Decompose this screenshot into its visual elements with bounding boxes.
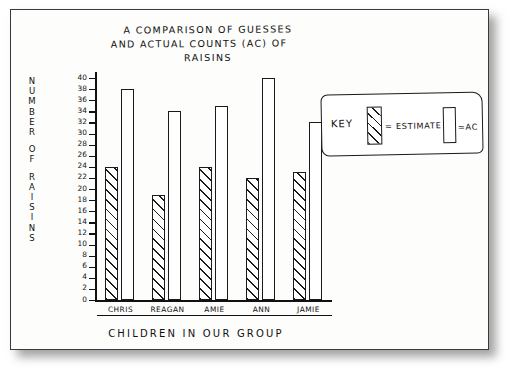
y-axis-tick xyxy=(89,233,96,234)
bar-estimate xyxy=(246,178,259,300)
y-axis-label-char: I xyxy=(24,192,40,202)
x-axis-label: CHILDREN IN OUR GROUP xyxy=(71,328,321,339)
y-axis-tick-label: 34 xyxy=(78,106,87,115)
y-axis-tick-label: 6 xyxy=(82,261,87,270)
y-axis-tick-label: 2 xyxy=(82,283,87,292)
y-axis-tick-label: 18 xyxy=(78,195,87,204)
bars-container xyxy=(97,72,332,300)
x-axis-category-label: REAGAN xyxy=(144,305,191,316)
y-axis-label-char: E xyxy=(24,117,40,127)
plot-area: 4038363432302826242220181614121086420 CH… xyxy=(67,72,327,304)
y-axis-tick xyxy=(89,156,96,157)
legend-text-ac: =AC xyxy=(458,122,478,132)
y-axis-tick-label: 40 xyxy=(78,73,87,82)
y-axis-tick-label: 0 xyxy=(82,295,87,304)
bar-estimate xyxy=(105,167,118,300)
y-axis-label-char: R xyxy=(24,127,40,137)
bar-ac xyxy=(168,111,181,300)
y-axis-tick xyxy=(89,89,96,90)
legend-swatch-estimate xyxy=(367,106,383,144)
y-axis-tick-label: 8 xyxy=(82,250,87,259)
bar-estimate xyxy=(199,167,212,300)
y-axis-label-char: I xyxy=(24,212,40,222)
x-axis-category-label: AMIE xyxy=(191,305,238,316)
bar-estimate xyxy=(152,195,165,300)
y-axis-tick xyxy=(89,178,96,179)
y-axis-tick-label: 30 xyxy=(78,128,87,137)
y-axis-tick xyxy=(89,122,96,123)
bar-ac xyxy=(262,78,275,300)
y-axis-tick xyxy=(89,211,96,212)
bar-ac xyxy=(121,89,134,300)
y-axis-tick xyxy=(89,134,96,135)
y-axis-label-char: S xyxy=(24,202,40,212)
y-axis-tick xyxy=(89,300,96,301)
y-axis-tick xyxy=(89,200,96,201)
y-axis-tick-label: 20 xyxy=(78,184,87,193)
y-axis-label: NUMBEROFRAISINS xyxy=(24,76,40,243)
y-axis-tick-label: 36 xyxy=(78,95,87,104)
y-axis-tick-label: 14 xyxy=(78,217,87,226)
y-axis-label-char: U xyxy=(24,86,40,96)
y-axis-label-char: R xyxy=(24,172,40,182)
bar-ac xyxy=(309,122,322,300)
y-axis-label-char: S xyxy=(24,233,40,243)
x-axis-category-label: CHRIS xyxy=(97,305,144,316)
y-axis-tick-label: 16 xyxy=(78,206,87,215)
y-axis-tick xyxy=(89,111,96,112)
y-axis-label-char: A xyxy=(24,182,40,192)
bar-ac xyxy=(215,106,228,300)
y-axis-tick xyxy=(89,245,96,246)
y-axis-tick xyxy=(89,278,96,279)
y-axis-label-spacer xyxy=(24,137,40,144)
photograph-frame: A COMPARISON OF GUESSES AND ACTUAL COUNT… xyxy=(10,9,489,350)
y-axis-tick xyxy=(89,267,96,268)
y-axis-label-char: O xyxy=(24,144,40,154)
y-axis-tick xyxy=(89,145,96,146)
y-axis-label-char: F xyxy=(24,154,40,164)
y-axis-tick-label: 38 xyxy=(78,84,87,93)
y-axis-tick-label: 4 xyxy=(82,272,87,281)
y-axis-tick xyxy=(89,189,96,190)
legend-text-estimate: = ESTIMATE xyxy=(385,120,442,131)
x-axis-category-label: JAMIE xyxy=(285,305,332,316)
chart-legend-key: KEY = ESTIMATE =AC xyxy=(320,91,483,156)
y-axis-tick-label: 10 xyxy=(78,239,87,248)
y-axis-tick xyxy=(89,222,96,223)
y-axis-tick xyxy=(89,100,96,101)
y-axis-tick-label: 12 xyxy=(78,228,87,237)
y-axis-tick-label: 32 xyxy=(78,117,87,126)
y-axis-tick xyxy=(89,167,96,168)
chart-title-line-3: RAISINS xyxy=(63,50,353,66)
y-axis-tick-label: 22 xyxy=(78,172,87,181)
y-axis-tick-label: 26 xyxy=(78,150,87,159)
y-axis-label-spacer xyxy=(24,165,40,172)
y-axis-label-char: B xyxy=(24,107,40,117)
y-axis-tick xyxy=(89,289,96,290)
legend-swatch-ac xyxy=(443,107,457,143)
key-label: KEY xyxy=(331,118,353,129)
bar-estimate xyxy=(293,172,306,300)
y-axis-tick-label: 24 xyxy=(78,161,87,170)
x-axis-line xyxy=(95,300,332,302)
y-axis-label-char: N xyxy=(24,76,40,86)
x-axis-category-label: ANN xyxy=(238,305,285,316)
chart-title: A COMPARISON OF GUESSES AND ACTUAL COUNT… xyxy=(63,22,353,66)
y-axis-tick xyxy=(89,78,96,79)
y-axis-label-char: M xyxy=(24,96,40,106)
y-axis-tick xyxy=(89,256,96,257)
y-axis-tick-label: 28 xyxy=(78,139,87,148)
y-axis-label-char: N xyxy=(24,223,40,233)
